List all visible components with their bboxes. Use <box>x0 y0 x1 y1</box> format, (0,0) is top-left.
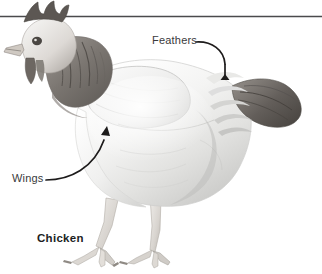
eye <box>32 37 42 45</box>
figure-caption: Chicken <box>37 232 84 244</box>
callout-label-feathers: Feathers <box>152 34 197 46</box>
eye-highlight <box>34 39 37 42</box>
callout-label-wings: Wings <box>12 172 44 184</box>
